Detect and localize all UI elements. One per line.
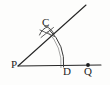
vertex-label-d: D: [63, 66, 71, 77]
vertex-label-p: P: [11, 59, 17, 70]
vertex-label-c: C: [42, 17, 49, 28]
geometry-canvas: [0, 0, 110, 85]
vertex-label-q: Q: [84, 66, 92, 77]
geometry-figure: P C D Q: [0, 0, 110, 85]
